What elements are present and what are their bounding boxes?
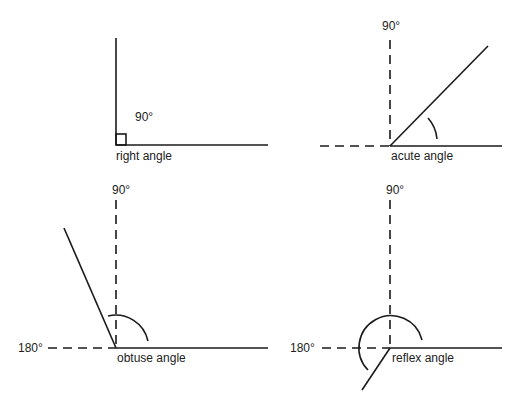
degree-label: 90° [382,19,400,33]
acute-angle-figure: 90° acute angle [320,19,502,163]
obtuse-angle-figure: 90° 180° obtuse angle [18,183,268,365]
degree-label-top: 90° [386,183,404,197]
angle-name-label: acute angle [391,149,453,163]
reflex-angle-figure: 90° 180° reflex angle [290,183,502,390]
right-angle-figure: 90° right angle [116,38,268,163]
angle-name-label: right angle [116,149,172,163]
angle-name-label: reflex angle [392,351,454,365]
degree-label-left: 180° [290,341,315,355]
rotated-arm [64,228,116,348]
angle-types-diagram: 90° right angle 90° acute angle 90° 180°… [0,0,530,408]
angle-arc [428,118,437,139]
degree-label: 90° [135,110,153,124]
degree-label-left: 180° [18,341,43,355]
angle-name-label: obtuse angle [117,351,186,365]
rotated-arm [390,46,488,146]
right-angle-marker [116,134,126,145]
degree-label-top: 90° [112,183,130,197]
angle-arc [108,315,148,341]
